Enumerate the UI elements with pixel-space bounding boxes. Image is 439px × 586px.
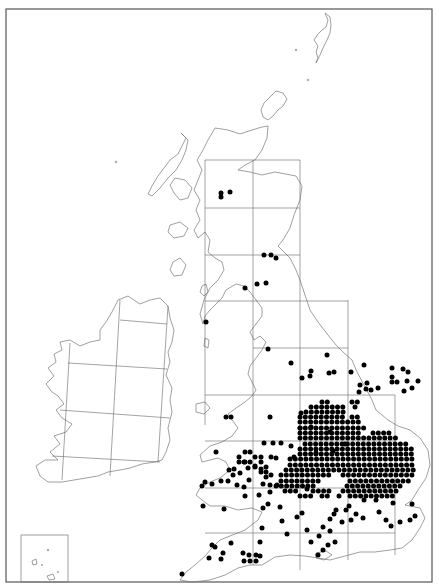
record-dot <box>314 405 319 410</box>
record-dot <box>289 444 294 449</box>
record-dot <box>345 431 350 436</box>
record-dot <box>321 548 326 553</box>
record-dot <box>356 463 361 468</box>
record-dot <box>329 415 334 420</box>
record-dot <box>258 540 263 545</box>
record-dot <box>243 494 248 499</box>
record-dot <box>393 436 398 441</box>
record-dot <box>356 426 361 431</box>
record-dot <box>298 457 303 462</box>
record-dot <box>356 473 361 478</box>
record-dot <box>326 489 331 494</box>
record-dot <box>361 442 366 447</box>
record-dot <box>372 463 377 468</box>
record-dot <box>235 483 240 488</box>
record-dot <box>395 380 400 385</box>
record-dot <box>232 467 237 472</box>
record-dot <box>378 457 383 462</box>
record-dot <box>299 468 304 473</box>
record-dot <box>308 415 313 420</box>
record-dot <box>367 457 372 462</box>
record-dot <box>298 436 303 441</box>
record-dot <box>308 494 313 499</box>
record-dot <box>335 405 340 410</box>
record-dot <box>288 463 293 468</box>
record-dot <box>324 436 329 441</box>
fair-isle <box>295 49 297 51</box>
record-dot <box>314 463 319 468</box>
record-dot <box>363 494 368 499</box>
record-dot <box>324 415 329 420</box>
record-dot <box>309 410 314 415</box>
record-dot <box>284 484 289 489</box>
record-dot <box>398 520 403 525</box>
record-dot <box>340 431 345 436</box>
record-dot <box>405 468 410 473</box>
record-dot <box>316 479 321 484</box>
record-dot <box>269 253 274 258</box>
record-dot <box>227 468 232 473</box>
record-dot <box>340 447 345 452</box>
record-dot <box>294 473 299 478</box>
record-dot <box>320 494 325 499</box>
record-dot <box>298 431 303 436</box>
record-dot <box>369 388 374 393</box>
record-dot <box>350 442 355 447</box>
record-dot <box>409 473 414 478</box>
anglesey-outline <box>196 402 210 414</box>
record-dot <box>316 473 321 478</box>
record-dot <box>303 426 308 431</box>
record-dot <box>329 442 334 447</box>
record-dot <box>360 484 365 489</box>
record-dot <box>409 463 414 468</box>
record-dot <box>340 420 345 425</box>
record-dot <box>366 484 371 489</box>
record-dot <box>330 405 335 410</box>
record-dot <box>324 420 329 425</box>
record-dot <box>303 431 308 436</box>
record-dot <box>384 468 389 473</box>
record-dot <box>319 426 324 431</box>
shetland-outline <box>314 13 331 63</box>
record-dot <box>335 426 340 431</box>
record-dot <box>280 519 285 524</box>
record-dot <box>246 466 251 471</box>
record-dot <box>403 442 408 447</box>
record-dot <box>266 502 271 507</box>
record-dot <box>319 405 324 410</box>
record-dot <box>356 452 361 457</box>
record-dot <box>399 457 404 462</box>
record-dot <box>210 482 215 487</box>
record-dot <box>330 410 335 415</box>
record-dot <box>253 455 258 460</box>
record-dot <box>269 473 274 478</box>
orkney-outline <box>261 91 287 120</box>
record-dot <box>393 447 398 452</box>
record-dot <box>308 374 313 379</box>
record-dot <box>405 379 410 384</box>
record-dot <box>390 375 395 380</box>
record-dot <box>324 431 329 436</box>
record-dot <box>402 389 407 394</box>
record-dot <box>413 514 418 519</box>
record-dot <box>268 490 273 495</box>
record-dot <box>345 447 350 452</box>
record-dot <box>303 494 308 499</box>
record-dot <box>367 473 372 478</box>
record-dot <box>308 442 313 447</box>
record-dot <box>274 256 279 261</box>
record-dot <box>378 473 383 478</box>
record-dot <box>325 463 330 468</box>
record-dot <box>388 452 393 457</box>
record-dot <box>309 457 314 462</box>
record-dot <box>358 383 363 388</box>
record-dot <box>288 489 293 494</box>
record-dot <box>353 405 358 410</box>
record-dot <box>260 526 265 531</box>
record-dot <box>369 479 374 484</box>
skye-outline <box>170 178 192 200</box>
record-dot <box>372 436 377 441</box>
record-dot <box>316 489 321 494</box>
record-dot <box>382 442 387 447</box>
record-dot <box>349 370 354 375</box>
